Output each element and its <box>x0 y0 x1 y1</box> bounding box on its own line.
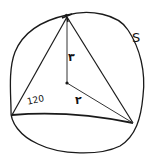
curve-label-s: S <box>132 31 140 44</box>
diagram-canvas <box>0 0 151 160</box>
triangle-base <box>12 114 133 123</box>
radius-lower-label: ۲ <box>75 95 82 106</box>
triangle-side-right <box>67 17 133 123</box>
center-point <box>65 81 68 84</box>
radius-vertical-label: ۳ <box>68 52 75 63</box>
